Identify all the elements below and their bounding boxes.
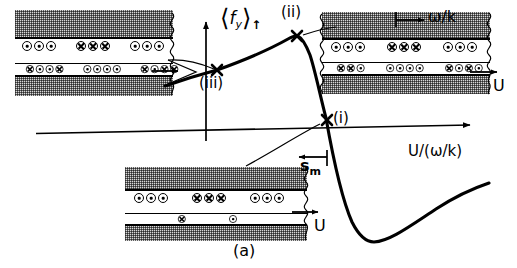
marker-label-i: (i) bbox=[333, 111, 349, 126]
x-axis-line bbox=[36, 125, 470, 134]
figure-panel-a: ⟨fy⟩↑ U/(ω/k) (iii) (ii) (i) ω/k U sm U … bbox=[0, 0, 517, 268]
y-axis-label-sub-arrow: ↑ bbox=[251, 18, 261, 32]
leader-line-ii bbox=[303, 27, 336, 35]
angle-bracket-close-icon: ⟩ bbox=[242, 4, 251, 32]
bracket-top-right-inset-left bbox=[320, 14, 324, 94]
figure-caption: (a) bbox=[233, 243, 255, 259]
shift-label: sm bbox=[300, 158, 321, 177]
x-axis-label: U/(ω/k) bbox=[408, 144, 462, 159]
shift-label-sub: m bbox=[310, 165, 321, 178]
shift-label-base: s bbox=[300, 156, 310, 175]
wave-speed-label: ω/k bbox=[428, 9, 456, 25]
marker-label-iii: (iii) bbox=[199, 76, 223, 91]
bracket-bottom-inset-right bbox=[304, 168, 307, 240]
inset-ii-drift-label: U bbox=[493, 78, 505, 94]
leader-line-iii bbox=[168, 60, 214, 69]
marker-label-ii: (ii) bbox=[281, 5, 301, 20]
angle-bracket-open-icon: ⟨ bbox=[220, 4, 229, 32]
inset-i-drift-label: U bbox=[314, 218, 326, 234]
y-axis-label: ⟨fy⟩↑ bbox=[220, 6, 261, 31]
bracket-top-right-inset-right bbox=[487, 13, 490, 94]
figure-vector-layer bbox=[0, 0, 517, 268]
